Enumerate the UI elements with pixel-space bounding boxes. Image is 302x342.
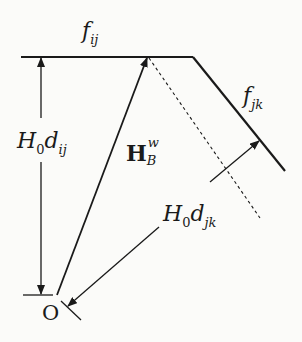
boundary-line-fjk	[193, 57, 285, 171]
label-H0dij-dsub: ij	[59, 142, 67, 157]
label-H0djk-H: H	[163, 201, 182, 226]
label-HBw-sub: B	[147, 154, 157, 167]
label-H0dij-d: d	[44, 128, 58, 153]
label-fij-base: f	[82, 18, 90, 43]
label-H0djk-dsub: jk	[205, 215, 217, 230]
label-fij: fij	[82, 20, 98, 42]
vector-HBw	[57, 58, 147, 295]
distance-arrow-djk	[68, 227, 159, 306]
label-HBw-sup: w	[148, 136, 159, 149]
label-fij-sub: ij	[90, 32, 98, 47]
label-H0dij-H: H	[17, 128, 36, 153]
label-fjk-sub: jk	[251, 97, 263, 112]
diagram-canvas	[0, 0, 302, 342]
label-H0dij: H0dij	[17, 130, 67, 152]
dashed-parallel-line	[149, 58, 260, 218]
label-H0dij-Hsub: 0	[36, 142, 44, 157]
perpendicular-arrow-djk	[210, 141, 259, 182]
label-H0djk-Hsub: 0	[182, 215, 190, 230]
label-fjk: fjk	[243, 85, 263, 107]
label-H0djk: H0djk	[163, 203, 216, 225]
label-H0djk-d: d	[190, 201, 204, 226]
label-origin: O	[42, 303, 59, 324]
label-HBw: HwB	[126, 142, 161, 165]
label-HBw-base: H	[126, 140, 147, 166]
label-fjk-base: f	[243, 83, 251, 108]
